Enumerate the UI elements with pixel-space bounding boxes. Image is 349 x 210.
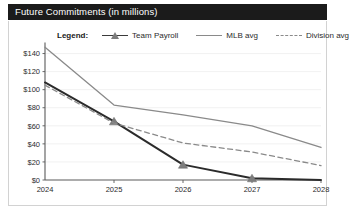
chart-legend: Legend: Team Payroll MLB avg Division av [57,29,349,41]
triangle-marker-icon [111,32,119,39]
legend-item-mlb-avg[interactable]: MLB avg [196,31,258,40]
legend-dashed-line-icon [276,35,302,36]
legend-label-mlb-avg: MLB avg [226,31,258,40]
legend-swatch-team-payroll [102,31,128,40]
legend-label-team-payroll: Team Payroll [132,31,178,40]
legend-solid-line-icon [196,35,222,36]
legend-item-division-avg[interactable]: Division avg [276,31,349,40]
chart-body: Legend: Team Payroll MLB avg Division av [8,21,327,206]
legend-label-division-avg: Division avg [306,31,349,40]
legend-swatch-division-avg [276,31,302,40]
legend-title: Legend: [57,31,88,40]
legend-swatch-mlb-avg [196,31,222,40]
page-title: Future Commitments (in millions) [15,7,158,17]
chart-title-bar: Future Commitments (in millions) [8,4,327,20]
legend-item-team-payroll[interactable]: Team Payroll [102,31,178,40]
